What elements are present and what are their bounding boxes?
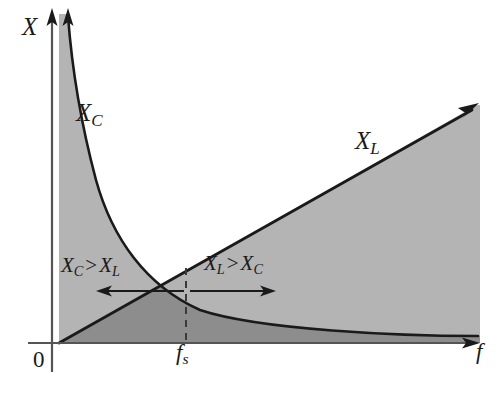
origin-label: 0 — [33, 348, 45, 371]
capacitive-curve-label: XC — [76, 100, 103, 129]
x-axis-label: f — [476, 340, 482, 363]
reactance-frequency-figure: X XC XL 0 fs f XC>XL XL>XC — [0, 0, 503, 393]
plot-area — [0, 0, 503, 393]
right-inequality-label: XL>XC — [204, 253, 263, 276]
inductive-curve-label: XL — [355, 128, 380, 157]
resonant-frequency-label: fs — [176, 341, 188, 367]
left-inequality-label: XC>XL — [61, 255, 120, 278]
y-axis-label: X — [22, 14, 37, 39]
